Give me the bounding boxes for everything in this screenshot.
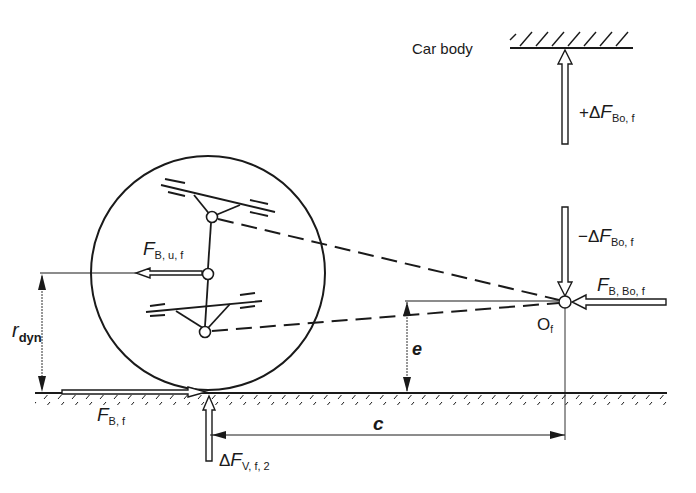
upper-ball-joint — [207, 212, 218, 223]
svg-text:ΔFV, f, 2: ΔFV, f, 2 — [219, 449, 270, 472]
f-b-bo-f-arrow: FB, Bo, f — [572, 274, 666, 309]
svg-text:e: e — [412, 339, 422, 359]
f-b-f-arrow: FB, f — [62, 387, 206, 427]
wheel-center-joint — [203, 269, 214, 280]
pitch-pole-o-f: Of — [405, 296, 571, 440]
instant-center-lines — [212, 219, 559, 331]
svg-text:−ΔFBo, f: −ΔFBo, f — [578, 225, 634, 248]
r-dyn-dimension: rdyn — [12, 274, 46, 392]
lower-control-arm — [146, 293, 262, 328]
suspension-force-diagram: Car body +ΔFBo, f −ΔFBo, f FB, Bo, f — [0, 0, 696, 493]
car-body-label: Car body — [412, 40, 473, 57]
svg-text:+ΔFBo, f: +ΔFBo, f — [579, 101, 635, 124]
svg-text:Of: Of — [537, 315, 553, 335]
f-b-u-f-arrow: FB, u, f — [40, 238, 202, 278]
lower-ball-joint — [200, 327, 211, 338]
delta-f-v-f-2-arrow: ΔFV, f, 2 — [203, 396, 270, 472]
svg-text:FB, f: FB, f — [97, 404, 126, 427]
ground — [35, 393, 667, 405]
car-body: Car body — [412, 32, 633, 57]
c-dimension: c — [210, 413, 565, 439]
svg-text:FB, u, f: FB, u, f — [143, 238, 184, 261]
svg-text:FB, Bo, f: FB, Bo, f — [597, 274, 646, 297]
plus-delta-f-bo-f-arrow: +ΔFBo, f — [558, 50, 635, 144]
upper-control-arm — [161, 179, 275, 216]
svg-text:rdyn: rdyn — [12, 319, 42, 345]
svg-text:c: c — [373, 413, 384, 434]
